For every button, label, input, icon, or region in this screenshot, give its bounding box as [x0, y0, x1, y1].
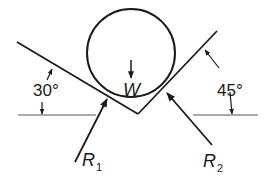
angle-45-upper-arrow	[205, 50, 219, 68]
angle-45-label: 45°	[217, 82, 243, 99]
reaction-r2-symbol: R	[203, 151, 216, 171]
reaction-r1-label: R1	[82, 151, 102, 169]
reaction-r1-subscript: 1	[96, 161, 102, 173]
reaction-r2-label: R2	[203, 152, 223, 170]
reaction-r1-symbol: R	[82, 150, 95, 170]
statics-diagram: 30° 45° W R1 R2	[0, 0, 269, 184]
reaction-r2-subscript: 2	[217, 162, 223, 174]
right-inclined-plane	[138, 31, 217, 114]
angle-30-upper-arrow	[47, 69, 52, 80]
reaction-r2-arrow	[167, 93, 212, 145]
left-inclined-plane	[17, 42, 138, 114]
weight-label: W	[123, 81, 140, 99]
angle-30-label: 30°	[33, 82, 59, 99]
